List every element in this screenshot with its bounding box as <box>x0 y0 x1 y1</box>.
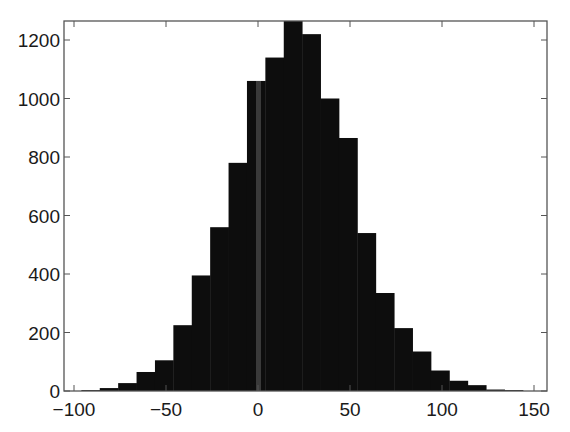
x-tick-label: 100 <box>426 399 458 420</box>
histogram-bar <box>210 227 229 391</box>
histogram-bar <box>192 275 211 391</box>
y-tick-label: 0 <box>49 381 60 402</box>
histogram-bar <box>376 293 395 391</box>
x-tick-label: 50 <box>339 399 360 420</box>
x-tick-label: −100 <box>53 399 96 420</box>
histogram-bar <box>118 383 137 391</box>
gray-stripe-artifact <box>256 81 261 391</box>
histogram-bar <box>394 328 413 391</box>
histogram-bar <box>229 163 248 391</box>
histogram-bar <box>137 372 156 391</box>
y-tick-label: 1000 <box>18 89 60 110</box>
histogram-bar <box>357 233 376 391</box>
histogram-bar <box>339 138 358 391</box>
histogram-bar <box>265 58 284 391</box>
histogram-bar <box>173 325 192 391</box>
histogram-bar <box>468 385 487 391</box>
histogram-bar <box>321 99 340 392</box>
histogram-bar <box>431 371 450 391</box>
histogram-bar <box>155 360 174 391</box>
x-tick-label: −50 <box>150 399 182 420</box>
y-tick-label: 1200 <box>18 30 60 51</box>
histogram-bar <box>302 34 321 391</box>
x-tick-label: 0 <box>253 399 264 420</box>
y-tick-label: 600 <box>28 206 60 227</box>
histogram-bar <box>413 352 432 391</box>
y-tick-label: 400 <box>28 264 60 285</box>
histogram-bar <box>449 381 468 391</box>
histogram-bars <box>81 21 523 391</box>
y-tick-label: 800 <box>28 147 60 168</box>
histogram-bar <box>284 21 303 391</box>
histogram-chart: −100−50050100150 020040060080010001200 <box>0 0 570 432</box>
x-tick-label: 150 <box>518 399 550 420</box>
y-tick-label: 200 <box>28 323 60 344</box>
